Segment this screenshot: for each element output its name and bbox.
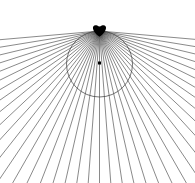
circle-center-dot bbox=[98, 62, 101, 65]
radial-pencil-diagram bbox=[0, 0, 195, 183]
figure-canvas bbox=[0, 0, 195, 183]
